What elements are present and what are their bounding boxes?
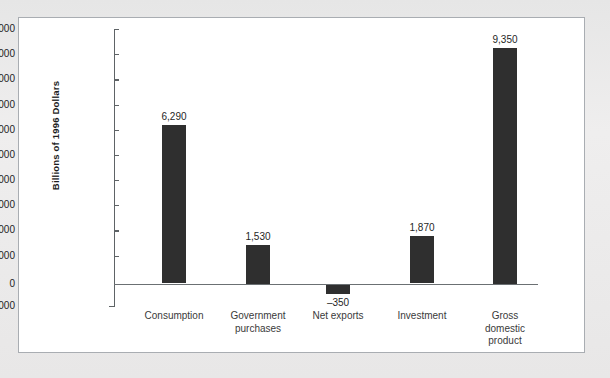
y-tick-label-3000: 3,000 — [0, 200, 15, 210]
bar-value-government-purchases: 1,530 — [223, 231, 293, 242]
y-tick-label-6000: 6,000 — [0, 125, 15, 135]
y-tick-3000 — [114, 205, 119, 206]
x-category-line: purchases — [206, 323, 310, 336]
x-category-line: domestic — [453, 323, 557, 336]
y-tick-9000 — [114, 54, 119, 55]
bar-value-consumption: 6,290 — [139, 111, 209, 122]
y-tick-label-4000: 4,000 — [0, 175, 15, 185]
bar-value-net-exports: –350 — [303, 297, 373, 308]
y-tick-label-0: 0 — [0, 279, 15, 289]
bar-net-exports[interactable] — [326, 285, 350, 294]
figure-frame: Billions of 1996 Dollars 10,000 9,000 8,… — [18, 17, 585, 353]
y-tick-label-5000: 5,000 — [0, 150, 15, 160]
y-tick-8000 — [114, 79, 119, 80]
y-tick-10000 — [114, 29, 119, 30]
x-category-label-gross-domestic-product: Gross domestic product — [453, 310, 557, 348]
y-tick-label-10000: 10,000 — [0, 24, 15, 34]
figure-page: Billions of 1996 Dollars 10,000 9,000 8,… — [0, 0, 610, 378]
bar-value-gross-domestic-product: 9,350 — [470, 34, 540, 45]
y-tick-label-neg1000: –1,000 — [0, 301, 15, 311]
y-axis-foot — [109, 306, 115, 307]
bar-consumption[interactable] — [162, 125, 186, 283]
bar-chart: Billions of 1996 Dollars 10,000 9,000 8,… — [19, 18, 586, 354]
y-tick-label-8000: 8,000 — [0, 74, 15, 84]
y-tick-4000 — [114, 180, 119, 181]
y-axis-line — [114, 29, 115, 307]
bar-government-purchases[interactable] — [246, 245, 270, 284]
bar-value-investment: 1,870 — [387, 222, 457, 233]
bar-investment[interactable] — [410, 236, 434, 283]
bar-gross-domestic-product[interactable] — [493, 48, 517, 284]
y-tick-label-1000: 1,000 — [0, 251, 15, 261]
y-tick-1000 — [114, 256, 119, 257]
y-tick-7000 — [114, 105, 119, 106]
x-category-line: product — [453, 335, 557, 348]
y-axis-title: Billions of 1996 Dollars — [50, 36, 61, 236]
y-tick-label-7000: 7,000 — [0, 100, 15, 110]
y-tick-2000 — [114, 230, 119, 231]
y-tick-label-2000: 2,000 — [0, 225, 15, 235]
y-tick-6000 — [114, 130, 119, 131]
y-tick-5000 — [114, 155, 119, 156]
x-category-line: Gross — [453, 310, 557, 323]
y-tick-label-9000: 9,000 — [0, 49, 15, 59]
